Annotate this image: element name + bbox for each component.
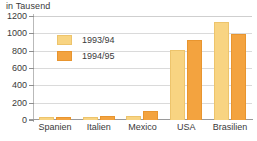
y-axis-tick-label: 1200 bbox=[7, 11, 27, 21]
x-axis-labels: SpanienItalienMexicoUSABrasilien bbox=[33, 122, 252, 132]
x-axis-tick-label: Spanien bbox=[33, 122, 77, 132]
bar-group bbox=[121, 16, 165, 120]
legend-item: 1993/94 bbox=[57, 33, 115, 46]
bar-groups bbox=[33, 16, 252, 120]
y-axis-tick bbox=[29, 120, 34, 121]
y-axis-tick-label: 200 bbox=[12, 98, 27, 108]
y-axis-tick-label: 400 bbox=[12, 80, 27, 90]
bar bbox=[231, 34, 246, 120]
y-axis-tick-label: 600 bbox=[12, 63, 27, 73]
legend-swatch bbox=[57, 35, 72, 45]
bar bbox=[143, 111, 158, 120]
bar bbox=[83, 117, 98, 120]
bar-group bbox=[33, 16, 77, 120]
bar-group bbox=[77, 16, 121, 120]
legend-label: 1993/94 bbox=[82, 35, 115, 45]
legend-swatch bbox=[57, 51, 72, 61]
chart-container: in Tausend 020040060080010001200 Spanien… bbox=[0, 0, 257, 141]
bar bbox=[187, 40, 202, 120]
y-axis-tick-label: 0 bbox=[22, 115, 27, 125]
bar bbox=[214, 22, 229, 120]
bar bbox=[170, 50, 185, 120]
bar-group bbox=[208, 16, 252, 120]
x-axis-tick-label: USA bbox=[164, 122, 208, 132]
bar bbox=[39, 117, 54, 120]
bar-group bbox=[164, 16, 208, 120]
plot-area: 020040060080010001200 bbox=[33, 16, 252, 120]
bar bbox=[126, 116, 141, 120]
legend-item: 1994/95 bbox=[57, 49, 115, 62]
axis-unit-title: in Tausend bbox=[6, 1, 50, 11]
chart-legend: 1993/941994/95 bbox=[57, 33, 115, 65]
x-axis-tick-label: Italien bbox=[77, 122, 121, 132]
legend-label: 1994/95 bbox=[82, 51, 115, 61]
x-axis-tick-label: Brasilien bbox=[208, 122, 252, 132]
y-axis-tick-label: 800 bbox=[12, 46, 27, 56]
bar bbox=[56, 117, 71, 120]
y-axis-tick-label: 1000 bbox=[7, 28, 27, 38]
bar bbox=[100, 116, 115, 120]
x-axis-tick-label: Mexico bbox=[121, 122, 165, 132]
